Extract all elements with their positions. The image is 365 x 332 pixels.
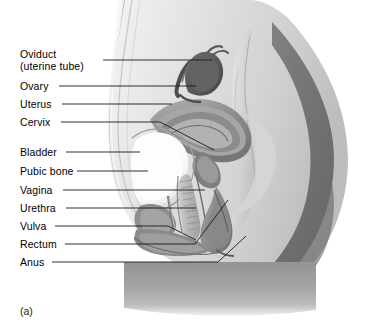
label-urethra: Urethra <box>20 202 56 214</box>
label-oviduct-line1: Oviduct <box>20 48 84 60</box>
label-ovary-line1: Ovary <box>20 80 49 92</box>
label-pubic-bone-line1: Pubic bone <box>20 165 74 177</box>
label-rectum-line1: Rectum <box>20 238 57 250</box>
label-pubic-bone: Pubic bone <box>20 165 74 177</box>
label-rectum: Rectum <box>20 238 57 250</box>
label-vagina-line1: Vagina <box>20 184 53 196</box>
label-oviduct: Oviduct(uterine tube) <box>20 48 84 72</box>
label-ovary: Ovary <box>20 80 49 92</box>
label-anus-line1: Anus <box>20 256 44 268</box>
label-urethra-line1: Urethra <box>20 202 56 214</box>
figure-container: Oviduct(uterine tube)OvaryUterusCervixBl… <box>0 0 365 332</box>
label-uterus-line1: Uterus <box>20 98 52 110</box>
label-cervix: Cervix <box>20 116 50 128</box>
figure-caption: (a) <box>20 305 33 317</box>
label-anus: Anus <box>20 256 44 268</box>
label-vulva-line1: Vulva <box>20 220 46 232</box>
label-vagina: Vagina <box>20 184 53 196</box>
label-bladder-line1: Bladder <box>20 146 57 158</box>
label-bladder: Bladder <box>20 146 57 158</box>
label-uterus: Uterus <box>20 98 52 110</box>
label-cervix-line1: Cervix <box>20 116 50 128</box>
label-vulva: Vulva <box>20 220 46 232</box>
label-oviduct-line2: (uterine tube) <box>20 60 84 72</box>
